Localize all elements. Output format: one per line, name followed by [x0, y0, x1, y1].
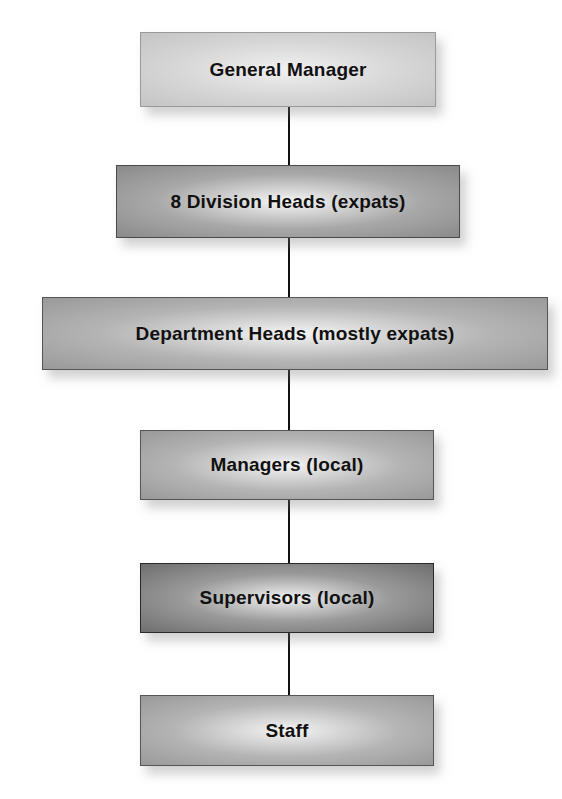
connector-managers-supervisors: [288, 500, 290, 563]
node-staff: Staff: [140, 695, 434, 766]
node-division-heads: 8 Division Heads (expats): [116, 165, 460, 238]
node-general-manager: General Manager: [140, 32, 436, 107]
connector-division-department: [288, 238, 290, 297]
connector-department-managers: [288, 370, 290, 430]
connector-gm-division: [288, 107, 290, 165]
node-label: Managers (local): [210, 454, 363, 476]
node-managers: Managers (local): [140, 430, 434, 500]
node-label: General Manager: [209, 59, 366, 81]
connector-supervisors-staff: [288, 633, 290, 695]
node-label: Supervisors (local): [200, 587, 375, 609]
node-supervisors: Supervisors (local): [140, 563, 434, 633]
node-department-heads: Department Heads (mostly expats): [42, 297, 548, 370]
node-label: Staff: [265, 720, 308, 742]
node-label: 8 Division Heads (expats): [170, 191, 405, 213]
node-label: Department Heads (mostly expats): [136, 323, 455, 345]
